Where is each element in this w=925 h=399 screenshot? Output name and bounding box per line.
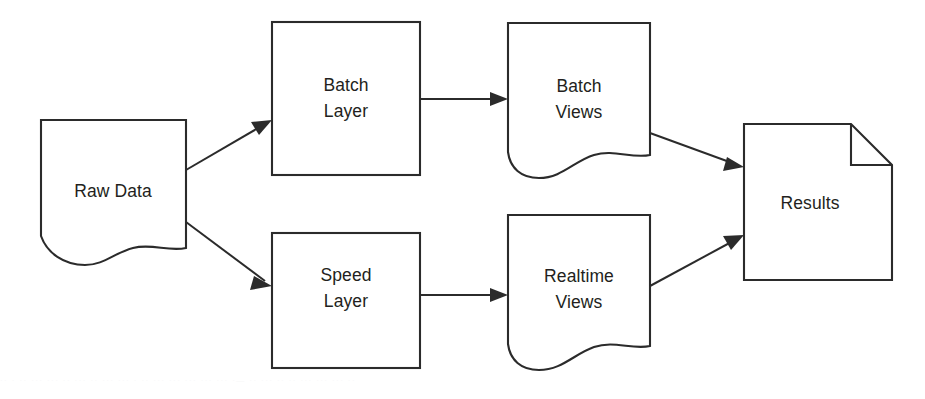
raw-data-label: Raw Data (74, 181, 152, 201)
node-results: Results (744, 124, 892, 280)
arrowhead-icon (490, 288, 508, 302)
arrowhead-icon (723, 235, 744, 250)
edge-line (186, 124, 265, 170)
edge-realtime-views-to-results (650, 235, 744, 286)
arrowhead-icon (723, 157, 744, 171)
edge-line (650, 240, 735, 286)
edge-raw-data-to-speed-layer (186, 222, 272, 290)
scan-artifact-text: ·· · ·· ··· ··· ·· ··· ·· ··· ··· · ·· ·… (0, 376, 925, 399)
edge-raw-data-to-batch-layer (186, 120, 272, 170)
diagram-canvas: Raw Data Batch Layer Batch Views Speed L… (0, 0, 925, 399)
node-realtime-views: Realtime Views (508, 215, 650, 370)
batch-views-document-shape (508, 23, 650, 178)
batch-layer-label-line2: Layer (324, 101, 368, 121)
edge-batch-views-to-results (650, 133, 744, 171)
arrowhead-icon (490, 92, 508, 106)
arrowhead-icon (251, 120, 272, 135)
speed-layer-label-line1: Speed (320, 265, 371, 285)
batch-layer-rectangle (272, 22, 420, 175)
node-raw-data: Raw Data (41, 120, 186, 265)
node-speed-layer: Speed Layer (272, 233, 420, 368)
realtime-views-label-line2: Views (556, 292, 603, 312)
edge-line (186, 222, 265, 281)
realtime-views-label-line1: Realtime (544, 266, 614, 286)
results-label: Results (780, 193, 839, 213)
speed-layer-label-line2: Layer (324, 291, 368, 311)
batch-layer-label-line1: Batch (323, 75, 368, 95)
edge-line (650, 133, 735, 164)
batch-views-label-line1: Batch (556, 76, 601, 96)
batch-views-label-line2: Views (556, 102, 603, 122)
node-batch-layer: Batch Layer (272, 22, 420, 175)
lambda-architecture-diagram: Raw Data Batch Layer Batch Views Speed L… (0, 0, 925, 399)
edge-speed-layer-to-realtime-views (420, 288, 508, 302)
node-batch-views: Batch Views (508, 23, 650, 178)
edge-batch-layer-to-batch-views (420, 92, 508, 106)
